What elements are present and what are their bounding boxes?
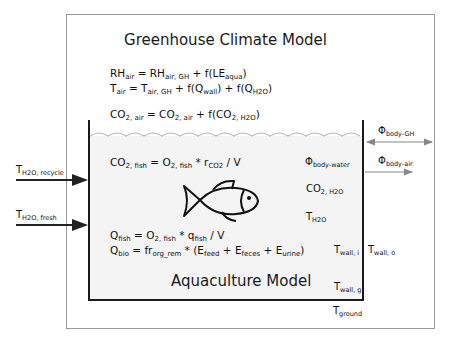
label-t-h2o: TH2O xyxy=(306,211,326,224)
label-t-wall-i: Twall, i xyxy=(334,244,359,257)
label-t-wall-o: Twall, o xyxy=(368,244,395,257)
label-t-h2o-recycle: TH2O, recycle xyxy=(16,164,64,177)
aquaculture-title: Aquaculture Model xyxy=(171,272,311,290)
water-surface-icon xyxy=(90,133,360,136)
greenhouse-title: Greenhouse Climate Model xyxy=(0,31,451,49)
equation-co2-air: CO2, air = CO2, air + f(CO2, H2O) xyxy=(110,108,260,122)
label-t-ground: Tground xyxy=(333,305,362,318)
label-phi-body-water: Φbody-water xyxy=(305,156,350,169)
equation-q-fish: Qfish = O2, fish * qfish / V xyxy=(110,229,224,243)
fish-icon xyxy=(184,181,258,221)
label-t-wall-g: Twall, g xyxy=(334,281,361,294)
equation-rh-air: RHair = RHair, GH + f(LEaqua) xyxy=(110,67,247,81)
equation-q-bio: Qbio = frorg_rem * (Efeed + Efeces + Eur… xyxy=(110,244,304,258)
equation-co2-fish: CO2, fish = O2, fish * rCO2 / V xyxy=(110,156,241,170)
label-co2-h2o: CO2, H2O xyxy=(306,183,343,196)
label-t-h2o-fresh: TH2O, fresh xyxy=(16,209,57,222)
label-phi-body-air: Φbody-air xyxy=(378,155,413,168)
diagram-lines xyxy=(0,0,451,346)
equation-t-air: Tair = Tair, GH + f(Qwall) + f(QH2O) xyxy=(110,82,272,96)
label-phi-body-gh: Φbody-GH xyxy=(378,125,414,138)
